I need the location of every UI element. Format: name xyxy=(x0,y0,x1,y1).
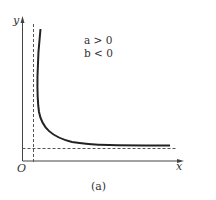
y-axis-label: y xyxy=(12,14,20,27)
y-axis-arrow-icon xyxy=(21,16,25,23)
y-axis xyxy=(21,16,25,161)
function-graph: y O x a > 0 b < 0 (a) xyxy=(0,0,216,200)
figure-caption: (a) xyxy=(91,180,106,193)
x-axis-label: x xyxy=(176,160,183,173)
condition-b: b < 0 xyxy=(84,47,113,59)
x-axis xyxy=(23,159,185,163)
condition-a: a > 0 xyxy=(84,34,112,46)
origin-label: O xyxy=(17,162,26,175)
